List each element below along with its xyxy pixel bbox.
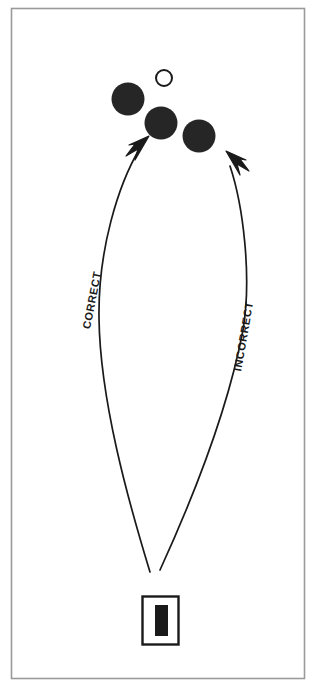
diagram-canvas — [0, 0, 318, 689]
cue-block-core — [155, 605, 168, 636]
incorrect-arrowhead-icon — [226, 151, 249, 175]
ball-left — [112, 83, 145, 116]
diagram-figure: CORRECT INCORRECT — [0, 0, 318, 689]
correct-arrowhead-icon — [126, 136, 149, 160]
target-ball-open-icon — [156, 70, 172, 86]
ball-middle — [145, 107, 178, 140]
ball-right — [183, 120, 216, 153]
correct-path-curve — [99, 148, 150, 572]
